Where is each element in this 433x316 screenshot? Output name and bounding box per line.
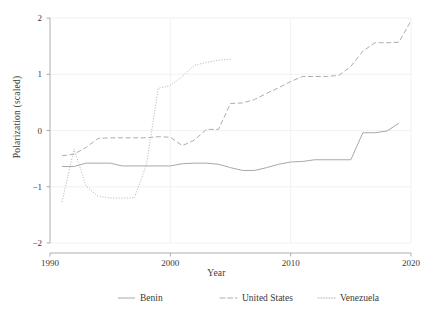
y-tick-label: −1 [32, 182, 42, 192]
data-series [62, 21, 411, 202]
x-tick-label: 2000 [161, 258, 180, 268]
x-tick-label: 2010 [282, 258, 301, 268]
y-tick-label: −2 [32, 238, 42, 248]
gridlines [50, 18, 411, 243]
legend-label-venezuela[interactable]: Venezuela [340, 293, 380, 303]
chart-legend: BeninUnited StatesVenezuela [118, 293, 380, 303]
y-tick-label: 1 [38, 69, 43, 79]
x-tick-label: 1990 [41, 258, 60, 268]
y-tick-label: 0 [38, 126, 43, 136]
legend-label-benin[interactable]: Benin [140, 293, 163, 303]
series-line-united-states [62, 21, 411, 156]
x-tick-label: 2020 [402, 258, 421, 268]
y-tick-label: 2 [38, 13, 43, 23]
axis-spines [50, 18, 411, 253]
legend-label-united-states[interactable]: United States [242, 293, 293, 303]
plot-area: −2−10121990200020102020 BeninUnited Stat… [0, 0, 433, 316]
polarization-line-chart: Polarization (scaled) Year −2−1012199020… [0, 0, 433, 316]
axis-ticks [47, 18, 412, 257]
